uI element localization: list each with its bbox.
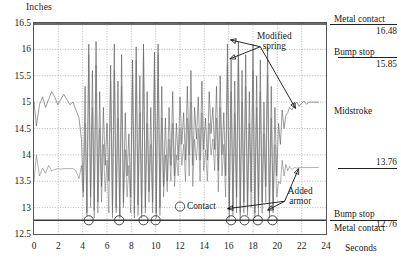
y-tick-label: 15: [1, 97, 31, 107]
y-tick-label: 16: [1, 44, 31, 54]
x-tick-label: 4: [80, 241, 85, 251]
contact-legend-label: Contact: [187, 201, 216, 211]
x-tick-label: 18: [248, 241, 258, 251]
x-tick-label: 2: [56, 241, 61, 251]
x-tick-label: 24: [321, 241, 331, 251]
x-tick-label: 16: [224, 241, 234, 251]
arrow-modified-spring-3: [260, 47, 295, 109]
y-axis-ticks: 16.51615.51514.51413.51312.5: [0, 0, 31, 262]
trace-lower-trace: [34, 55, 319, 219]
right-zone-midstroke: Midstroke: [334, 106, 372, 116]
right-zone-bump-stop-top: Bump stop: [334, 47, 375, 57]
right-zone-divider: [338, 57, 397, 58]
right-zone-divider: [330, 220, 397, 221]
data-traces: [34, 41, 319, 218]
x-tick-label: 20: [273, 241, 283, 251]
right-zone-value-13-76: 13.76: [376, 157, 397, 167]
x-tick-label: 6: [105, 241, 110, 251]
y-tick-label: 14.5: [1, 124, 31, 134]
plot-area: [33, 22, 327, 235]
chart-root: Inches Seconds 16.51615.51514.51413.5131…: [0, 0, 401, 262]
x-axis-title: Seconds: [345, 243, 377, 253]
right-zone-metal-contact-top: Metal contact: [334, 14, 385, 24]
y-tick-label: 13: [1, 203, 31, 213]
right-zone-metal-contact-bottom: Metal contact: [334, 223, 385, 233]
arrow-modified-spring-1-head: [230, 39, 236, 44]
x-tick-label: 22: [297, 241, 307, 251]
right-zone-divider: [330, 24, 397, 25]
plot-svg: [34, 23, 326, 234]
y-tick-label: 15.5: [1, 71, 31, 81]
y-tick-label: 12.5: [1, 229, 31, 239]
annotation-modified-spring-line2: spring: [257, 41, 292, 52]
annotation-modified-spring-line1: Modified: [257, 31, 292, 42]
x-tick-label: 0: [32, 241, 37, 251]
y-tick-label: 16.5: [1, 18, 31, 28]
annotation-added-armor-line1: Added: [288, 186, 313, 197]
annotation-added-armor-line2: armor: [288, 196, 313, 207]
contact-markers: [84, 202, 277, 225]
x-tick-label: 14: [200, 241, 210, 251]
arrow-added-armor-3-head: [294, 169, 298, 175]
x-tick-label: 8: [129, 241, 134, 251]
right-zone-bump-stop-bottom: Bump stop: [334, 209, 375, 219]
right-zone-value-16-48: 16.48: [376, 26, 397, 36]
right-zone-divider: [338, 168, 397, 169]
annotation-modified-spring: Modified spring: [257, 31, 292, 52]
x-tick-label: 12: [175, 241, 185, 251]
right-zone-value-15-85: 15.85: [376, 59, 397, 69]
x-tick-label: 10: [151, 241, 161, 251]
y-tick-label: 14: [1, 150, 31, 160]
arrow-modified-spring-2: [230, 47, 260, 59]
annotation-added-armor: Added armor: [288, 186, 313, 207]
y-tick-label: 13.5: [1, 176, 31, 186]
arrow-modified-spring-2-head: [230, 55, 236, 59]
